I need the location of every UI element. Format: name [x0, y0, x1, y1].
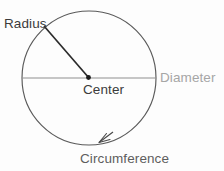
circle-diagram: Radius Center Diameter Circumference	[0, 0, 224, 171]
label-circumference: Circumference	[80, 152, 169, 166]
center-dot	[86, 75, 91, 80]
label-center: Center	[83, 83, 124, 97]
radius-line	[44, 26, 89, 78]
label-diameter: Diameter	[160, 71, 216, 85]
label-radius: Radius	[4, 17, 47, 31]
